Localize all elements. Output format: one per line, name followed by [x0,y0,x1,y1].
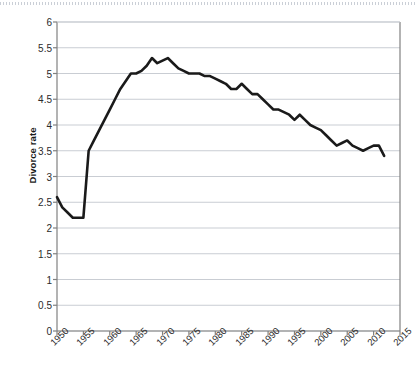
plot-area [0,0,416,369]
divorce-rate-chart: Divorce rate 00.511.522.533.544.555.56 1… [0,0,416,369]
data-series-divorce-rate [57,58,384,218]
